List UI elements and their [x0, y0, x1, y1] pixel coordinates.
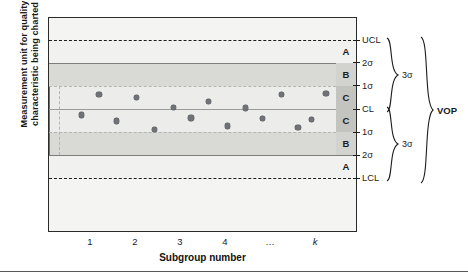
minus-1sigma-tick	[353, 132, 360, 133]
data-point	[79, 112, 84, 117]
xtick-2: 2	[125, 236, 145, 247]
upper-3sigma-label: 3σ	[402, 70, 413, 80]
data-point	[323, 91, 328, 96]
data-point	[206, 99, 211, 104]
cl-label: CL	[362, 104, 374, 114]
ucl-tick	[353, 40, 360, 41]
cl-tick	[353, 109, 360, 110]
vop-label: VOP	[437, 105, 457, 116]
y-axis-title-line1: Measurement unit for quality	[19, 1, 29, 128]
vop-brace	[419, 36, 435, 184]
data-point	[295, 125, 300, 130]
data-points-layer	[49, 18, 356, 231]
plot-area: A B C C B A	[48, 17, 357, 232]
minus-1sigma-label: 1σ	[362, 127, 373, 137]
plus-1sigma-tick	[353, 85, 360, 86]
ucl-label: UCL	[362, 35, 381, 45]
y-axis-title: Measurement unit for quality characteris…	[13, 0, 47, 172]
y-axis-title-line2: characteristic being charted	[30, 2, 40, 126]
data-point	[171, 105, 176, 110]
xtick-k: k	[305, 236, 325, 247]
data-point	[96, 92, 101, 97]
data-point	[243, 105, 248, 110]
plus-2sigma-tick	[353, 62, 360, 63]
data-point	[260, 116, 265, 121]
upper-3sigma-brace	[386, 37, 400, 113]
data-point	[152, 127, 157, 132]
x-axis-title: Subgroup number	[48, 252, 357, 263]
lcl-label: LCL	[362, 173, 379, 183]
xtick-1: 1	[80, 236, 100, 247]
data-point	[134, 95, 139, 100]
xtick-4: 4	[215, 236, 235, 247]
plus-2sigma-label: 2σ	[362, 58, 373, 68]
xtick-3: 3	[170, 236, 190, 247]
xtick-ellipsis: …	[260, 236, 280, 247]
lower-3sigma-label: 3σ	[402, 139, 413, 149]
control-chart-figure: Measurement unit for quality characteris…	[0, 0, 468, 280]
plus-1sigma-label: 1σ	[362, 81, 373, 91]
lower-3sigma-brace	[386, 106, 400, 182]
data-point	[279, 92, 284, 97]
minus-2sigma-label: 2σ	[362, 150, 373, 160]
data-point	[309, 117, 314, 122]
data-point	[225, 123, 230, 128]
data-point	[114, 118, 119, 123]
lcl-tick	[353, 178, 360, 179]
bottom-rule	[0, 271, 468, 272]
data-point	[188, 115, 193, 120]
minus-2sigma-tick	[353, 155, 360, 156]
